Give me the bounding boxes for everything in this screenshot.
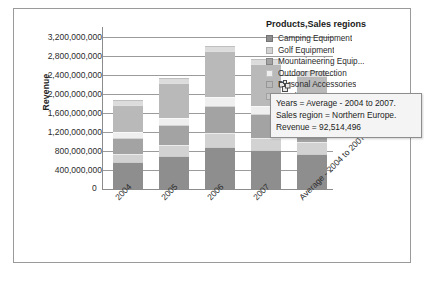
legend-swatch-icon [266, 70, 273, 77]
bar-segment[interactable] [251, 138, 281, 150]
data-point-tooltip: Years = Average - 2004 to 2007.Sales reg… [270, 93, 422, 138]
bar-segment[interactable] [113, 154, 143, 163]
y-axis-tick-label: 800,000,000 [30, 146, 102, 156]
screenshot-root: Revenue 400,000,000800,000,0001,200,000,… [0, 0, 424, 290]
bar-segment[interactable] [205, 133, 235, 147]
bar-group[interactable] [113, 105, 143, 189]
y-axis-tick-label: 1,200,000,000 [30, 127, 102, 137]
bar-top-cap [159, 78, 189, 83]
bar-segment[interactable] [159, 118, 189, 125]
legend-title: Products,Sales regions [266, 19, 418, 29]
legend-swatch-icon [266, 58, 273, 65]
bar-group[interactable] [205, 51, 235, 189]
legend-swatch-icon [266, 47, 273, 54]
tooltip-line: Revenue = 92,514,496 [276, 121, 416, 133]
y-axis-tick-label: 2,000,000,000 [30, 89, 102, 99]
legend-item[interactable]: Outdoor Protection [266, 68, 418, 80]
legend-item[interactable]: Golf Equipment [266, 45, 418, 57]
bar-top-cap [205, 46, 235, 51]
legend-item[interactable]: Mountaineering Equip... [266, 56, 418, 68]
y-axis-tick-label: 400,000,000 [30, 165, 102, 175]
bar-segment[interactable] [205, 106, 235, 133]
pointer-copy-icon [278, 79, 296, 97]
bar-top-cap [113, 100, 143, 105]
chart-frame: Revenue 400,000,000800,000,0001,200,000,… [13, 8, 411, 263]
legend-item-label: Mountaineering Equip... [278, 57, 364, 66]
legend-item-label: Camping Equipment [278, 34, 352, 43]
legend-swatch-icon [266, 81, 273, 88]
y-axis-tick-label: 1,600,000,000 [30, 108, 102, 118]
bar-segment[interactable] [159, 145, 189, 156]
bar-segment[interactable] [205, 51, 235, 97]
legend-item-label: Outdoor Protection [278, 69, 347, 78]
legend-item-label: Golf Equipment [278, 46, 334, 55]
bar-segment[interactable] [113, 105, 143, 132]
bar-group[interactable] [159, 83, 189, 189]
y-axis-tick-label: 2,400,000,000 [30, 70, 102, 80]
y-axis-ticks: 400,000,000800,000,0001,200,000,0001,600… [30, 19, 102, 189]
legend-swatch-icon [266, 35, 273, 42]
x-axis-origin-label: 0 [92, 183, 97, 193]
bar-segment[interactable] [205, 97, 235, 106]
legend-item[interactable]: Camping Equipment [266, 33, 418, 45]
bar-segment[interactable] [159, 125, 189, 145]
bar-segment[interactable] [113, 138, 143, 154]
bar-segment[interactable] [159, 83, 189, 118]
tooltip-line: Years = Average - 2004 to 2007. [276, 97, 416, 109]
y-axis-tick-label: 2,800,000,000 [30, 51, 102, 61]
tooltip-line: Sales region = Northern Europe. [276, 109, 416, 121]
y-axis-tick-label: 3,200,000,000 [30, 32, 102, 42]
bar-segment[interactable] [297, 142, 327, 153]
